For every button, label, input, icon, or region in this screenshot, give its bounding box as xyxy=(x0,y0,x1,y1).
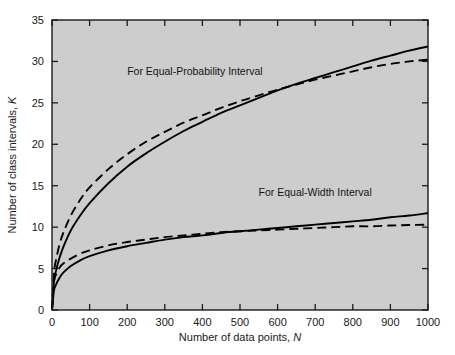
annotation-label-equal-width: For Equal-Width Interval xyxy=(259,186,372,198)
y-axis-tick-labels: 05101520253035 xyxy=(32,14,44,316)
x-axis-title-text: Number of data points, xyxy=(179,331,293,343)
x-axis-title: Number of data points, N xyxy=(179,331,301,343)
x-tick-label-800: 800 xyxy=(344,316,362,328)
y-tick-label-5: 5 xyxy=(38,263,44,275)
x-tick-label-700: 700 xyxy=(306,316,324,328)
y-axis-title-group: Number of class intervals, K xyxy=(6,96,18,234)
y-tick-label-25: 25 xyxy=(32,97,44,109)
x-tick-label-600: 600 xyxy=(268,316,286,328)
y-tick-label-10: 10 xyxy=(32,221,44,233)
x-tick-label-900: 900 xyxy=(381,316,399,328)
y-tick-label-30: 30 xyxy=(32,55,44,67)
chart-canvas: 01002003004005006007008009001000 0510152… xyxy=(0,0,455,355)
x-tick-label-1000: 1000 xyxy=(416,316,440,328)
x-tick-label-200: 200 xyxy=(118,316,136,328)
x-axis-title-group: Number of data points, N xyxy=(179,331,301,343)
y-tick-label-0: 0 xyxy=(38,304,44,316)
x-tick-label-100: 100 xyxy=(80,316,98,328)
y-axis-title-symbol: K xyxy=(6,96,18,104)
y-axis-title: Number of class intervals, K xyxy=(6,96,18,234)
plot-area-group xyxy=(52,20,428,310)
figure-container: 01002003004005006007008009001000 0510152… xyxy=(0,0,455,355)
x-tick-label-0: 0 xyxy=(49,316,55,328)
y-tick-label-15: 15 xyxy=(32,180,44,192)
x-axis-title-symbol: N xyxy=(293,331,301,343)
y-tick-label-20: 20 xyxy=(32,138,44,150)
y-tick-label-35: 35 xyxy=(32,14,44,26)
x-tick-label-300: 300 xyxy=(156,316,174,328)
x-tick-label-400: 400 xyxy=(193,316,211,328)
x-tick-label-500: 500 xyxy=(231,316,249,328)
plot-background xyxy=(52,20,428,310)
annotation-label-equal-probability: For Equal-Probability Interval xyxy=(127,65,262,77)
y-axis-title-text: Number of class intervals, xyxy=(6,104,18,234)
x-axis-tick-labels: 01002003004005006007008009001000 xyxy=(49,316,440,328)
